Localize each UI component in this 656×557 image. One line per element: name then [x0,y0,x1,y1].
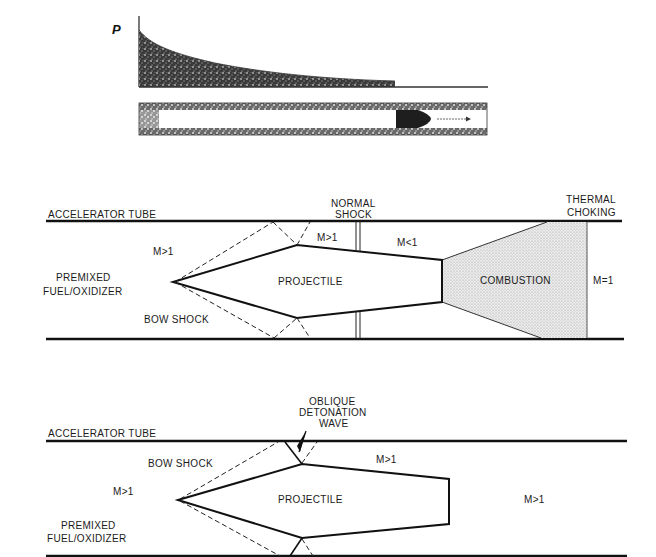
mach-before-shock: M>1 [317,232,338,243]
oblique-detonation-panel: ACCELERATOR TUBE OBLIQUE DETONATION WAVE… [46,396,627,556]
thermal-choking-label-2: CHOKING [567,207,616,218]
ram-accelerator-diagram: P ACCELERATOR TUBE NORMAL SHOCK THERMAL … [0,0,656,557]
gun-barrel [139,103,487,135]
mach-top: M>1 [376,454,397,465]
fuel-label-2: FUEL/OXIDIZER [47,533,126,544]
pressure-profile-area [139,30,395,87]
pressure-panel: P [112,16,488,135]
thermal-choking-label-1: THERMAL [566,194,616,205]
bow-shock-label: BOW SHOCK [144,314,209,325]
normal-shock-label-1: NORMAL [331,198,376,209]
mach-choke: M=1 [593,275,614,286]
bullet-projectile [396,110,431,128]
bow-shock-label: BOW SHOCK [148,458,213,469]
thermal-choking-panel: ACCELERATOR TUBE NORMAL SHOCK THERMAL CH… [43,194,624,339]
detonation-label-2: DETONATION [299,407,367,418]
projectile-label: PROJECTILE [278,494,343,505]
fuel-label-1: PREMIXED [56,272,111,283]
combustion-label: COMBUSTION [480,275,551,286]
tube-label: ACCELERATOR TUBE [48,209,156,220]
mach-after-shock: M<1 [397,237,418,248]
mach-upstream: M>1 [153,246,174,257]
mach-wake: M>1 [524,494,545,505]
pressure-axis-label: P [112,22,121,37]
tube-label: ACCELERATOR TUBE [48,428,156,439]
detonation-label-3: WAVE [319,418,349,429]
detonation-label-1: OBLIQUE [309,396,356,407]
mach-upstream: M>1 [113,486,134,497]
fuel-label-1: PREMIXED [61,520,116,531]
projectile-label: PROJECTILE [278,276,343,287]
fuel-label-2: FUEL/OXIDIZER [43,286,122,297]
motion-arrow-icon [466,117,471,122]
normal-shock-label-2: SHOCK [335,209,372,220]
